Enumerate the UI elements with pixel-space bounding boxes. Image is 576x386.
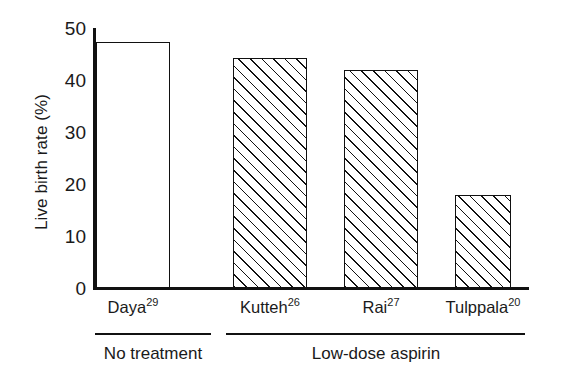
category-ref: 26 — [288, 296, 300, 308]
bar-rai — [344, 70, 418, 288]
category-name: Tulppala — [446, 298, 509, 316]
category-label-daya: Daya29 — [108, 296, 159, 317]
category-ref: 27 — [387, 296, 399, 308]
category-label-rai: Rai27 — [362, 296, 399, 317]
plot-area: Daya29 Kutteh26 Rai27 Tulppala20 No trea… — [0, 0, 576, 386]
category-label-kutteh: Kutteh26 — [240, 296, 300, 317]
bar-kutteh — [233, 58, 307, 288]
category-ref: 29 — [146, 296, 158, 308]
category-label-tulppala: Tulppala20 — [446, 296, 521, 317]
category-name: Kutteh — [240, 298, 288, 316]
group-separator-low-dose-aspirin — [226, 333, 525, 335]
category-name: Rai — [362, 298, 387, 316]
bar-daya — [96, 42, 170, 288]
category-name: Daya — [108, 298, 147, 316]
group-label-no-treatment: No treatment — [104, 344, 202, 364]
bar-chart: Live birth rate (%) 50 40 30 20 10 0 Day… — [0, 0, 576, 386]
group-label-low-dose-aspirin: Low-dose aspirin — [312, 344, 441, 364]
bar-tulppala — [455, 195, 511, 288]
category-ref: 20 — [508, 296, 520, 308]
group-separator-no-treatment — [95, 333, 211, 335]
